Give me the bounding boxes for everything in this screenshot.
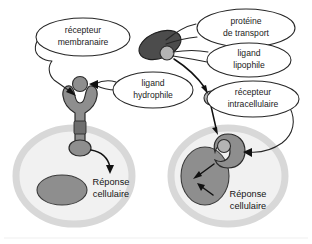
response-label-line2: cellulaire xyxy=(93,189,129,199)
callout-leader xyxy=(173,51,208,53)
callout-label-line1: ligand xyxy=(238,48,261,58)
callout-label-line2: hydrophile xyxy=(133,90,173,100)
diagram-canvas: récepteur membranaire protéine de transp… xyxy=(0,0,312,244)
callout-label-line1: récepteur xyxy=(65,25,101,35)
callout-label-line1: protéine xyxy=(230,16,261,26)
response-label-line2: cellulaire xyxy=(230,201,266,211)
callout-proteine-de-transport[interactable]: protéine de transport xyxy=(166,9,295,47)
callout-label-line2: intracellulaire xyxy=(228,99,279,109)
receptor-cytoplasmic-tail xyxy=(69,140,91,156)
response-label-line1: Réponse xyxy=(230,189,267,199)
callout-label-line2: de transport xyxy=(223,28,269,38)
callout-label-line1: ligand xyxy=(142,78,165,88)
left-cell-nucleus xyxy=(37,175,87,205)
arrow-head xyxy=(201,85,208,94)
callout-label-line2: lipophile xyxy=(233,60,265,70)
membrane-spanning-domain xyxy=(74,121,86,134)
transport-protein-icon xyxy=(135,25,186,66)
response-label-line1: Réponse xyxy=(93,177,130,187)
callout-label-line2: membranaire xyxy=(58,37,109,47)
ligand-lipophile-docked-icon xyxy=(218,140,231,153)
right-cell-nucleus xyxy=(181,147,229,205)
ligand-lipophile-bound-icon xyxy=(160,46,174,60)
signalling-diagram-figure: récepteur membranaire protéine de transp… xyxy=(0,0,312,244)
callout-leader xyxy=(95,81,116,84)
callout-ligand-hydrophile[interactable]: ligand hydrophile xyxy=(89,72,193,108)
transport-protein-complex xyxy=(135,25,186,66)
callout-label-line1: récepteur xyxy=(235,87,271,97)
ligand-hydrophile-bound-icon xyxy=(73,77,88,92)
